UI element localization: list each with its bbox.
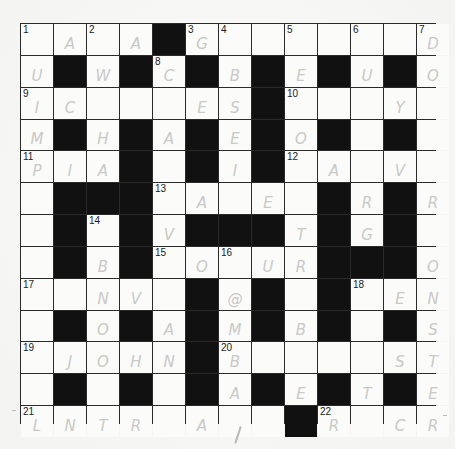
answer-cell[interactable] — [351, 342, 383, 373]
answer-cell[interactable]: A — [318, 151, 350, 182]
answer-cell[interactable]: I — [219, 151, 251, 182]
answer-cell[interactable]: V — [384, 151, 416, 182]
answer-cell[interactable]: A — [186, 183, 218, 214]
answer-cell[interactable]: N — [153, 342, 185, 373]
answer-cell[interactable]: A — [54, 24, 86, 55]
answer-cell[interactable]: O — [87, 342, 119, 373]
answer-cell[interactable] — [252, 24, 284, 55]
answer-cell[interactable]: M — [21, 120, 53, 151]
answer-cell[interactable] — [153, 151, 185, 182]
answer-cell[interactable]: 21L — [21, 406, 53, 437]
answer-cell[interactable]: 22R — [318, 406, 350, 437]
answer-cell[interactable]: E — [285, 56, 317, 87]
answer-cell[interactable]: E — [252, 183, 284, 214]
answer-cell[interactable]: S — [384, 342, 416, 373]
answer-cell[interactable] — [351, 88, 383, 119]
answer-cell[interactable]: 11P — [21, 151, 53, 182]
answer-cell[interactable]: B — [87, 247, 119, 278]
answer-cell[interactable]: T — [417, 342, 449, 373]
answer-cell[interactable]: T — [351, 374, 383, 405]
answer-cell[interactable]: A — [153, 120, 185, 151]
answer-cell[interactable]: Y — [384, 88, 416, 119]
answer-cell[interactable]: 4 — [219, 24, 251, 55]
answer-cell[interactable]: N — [54, 406, 86, 437]
answer-cell[interactable]: 2 — [87, 24, 119, 55]
answer-cell[interactable]: @ — [219, 279, 251, 310]
answer-cell[interactable] — [417, 151, 449, 182]
answer-cell[interactable] — [153, 374, 185, 405]
answer-cell[interactable] — [21, 247, 53, 278]
answer-cell[interactable]: O — [87, 311, 119, 342]
answer-cell[interactable]: C — [54, 88, 86, 119]
answer-cell[interactable]: O — [417, 56, 449, 87]
answer-cell[interactable]: 19 — [21, 342, 53, 373]
answer-cell[interactable] — [351, 151, 383, 182]
answer-cell[interactable] — [351, 311, 383, 342]
answer-cell[interactable]: 10 — [285, 88, 317, 119]
answer-cell[interactable]: 14 — [87, 215, 119, 246]
answer-cell[interactable] — [351, 406, 383, 437]
answer-cell[interactable]: A — [120, 24, 152, 55]
answer-cell[interactable]: 5 — [285, 24, 317, 55]
answer-cell[interactable]: 8C — [153, 56, 185, 87]
answer-cell[interactable]: A — [153, 311, 185, 342]
answer-cell[interactable]: 7D — [417, 24, 449, 55]
answer-cell[interactable]: O — [186, 247, 218, 278]
answer-cell[interactable]: A — [219, 374, 251, 405]
answer-cell[interactable]: V — [153, 215, 185, 246]
answer-cell[interactable]: R — [417, 183, 449, 214]
answer-cell[interactable]: M — [219, 311, 251, 342]
answer-cell[interactable] — [87, 88, 119, 119]
answer-cell[interactable]: G — [351, 215, 383, 246]
answer-cell[interactable] — [384, 24, 416, 55]
answer-cell[interactable]: U — [252, 247, 284, 278]
answer-cell[interactable] — [120, 88, 152, 119]
answer-cell[interactable] — [285, 342, 317, 373]
answer-cell[interactable]: E — [186, 88, 218, 119]
answer-cell[interactable] — [318, 342, 350, 373]
answer-cell[interactable]: N — [417, 279, 449, 310]
answer-cell[interactable] — [219, 183, 251, 214]
answer-cell[interactable]: 1 — [21, 24, 53, 55]
answer-cell[interactable]: 16 — [219, 247, 251, 278]
answer-cell[interactable] — [21, 215, 53, 246]
answer-cell[interactable]: 3G — [186, 24, 218, 55]
answer-cell[interactable] — [21, 183, 53, 214]
answer-cell[interactable] — [285, 183, 317, 214]
answer-cell[interactable]: S — [219, 88, 251, 119]
answer-cell[interactable]: 6 — [351, 24, 383, 55]
answer-cell[interactable] — [153, 279, 185, 310]
answer-cell[interactable]: E — [417, 374, 449, 405]
answer-cell[interactable]: O — [417, 247, 449, 278]
answer-cell[interactable] — [417, 120, 449, 151]
answer-cell[interactable]: V — [120, 279, 152, 310]
answer-cell[interactable]: 17 — [21, 279, 53, 310]
answer-cell[interactable] — [285, 279, 317, 310]
answer-cell[interactable]: R — [417, 406, 449, 437]
answer-cell[interactable] — [252, 342, 284, 373]
answer-cell[interactable] — [219, 406, 251, 437]
answer-cell[interactable]: A — [87, 151, 119, 182]
answer-cell[interactable]: 18 — [351, 279, 383, 310]
answer-cell[interactable]: E — [285, 374, 317, 405]
answer-cell[interactable]: B — [285, 311, 317, 342]
answer-cell[interactable]: T — [285, 215, 317, 246]
answer-cell[interactable]: H — [120, 342, 152, 373]
answer-cell[interactable]: B — [219, 56, 251, 87]
answer-cell[interactable] — [153, 406, 185, 437]
answer-cell[interactable]: 13 — [153, 183, 185, 214]
answer-cell[interactable]: U — [351, 56, 383, 87]
answer-cell[interactable]: E — [384, 279, 416, 310]
answer-cell[interactable]: S — [417, 311, 449, 342]
answer-cell[interactable] — [153, 88, 185, 119]
answer-cell[interactable]: N — [87, 279, 119, 310]
answer-cell[interactable] — [318, 88, 350, 119]
answer-cell[interactable]: I — [54, 151, 86, 182]
answer-cell[interactable]: U — [21, 56, 53, 87]
answer-cell[interactable] — [21, 374, 53, 405]
answer-cell[interactable]: 20B — [219, 342, 251, 373]
answer-cell[interactable] — [252, 406, 284, 437]
answer-cell[interactable] — [351, 120, 383, 151]
answer-cell[interactable]: E — [219, 120, 251, 151]
answer-cell[interactable] — [318, 24, 350, 55]
